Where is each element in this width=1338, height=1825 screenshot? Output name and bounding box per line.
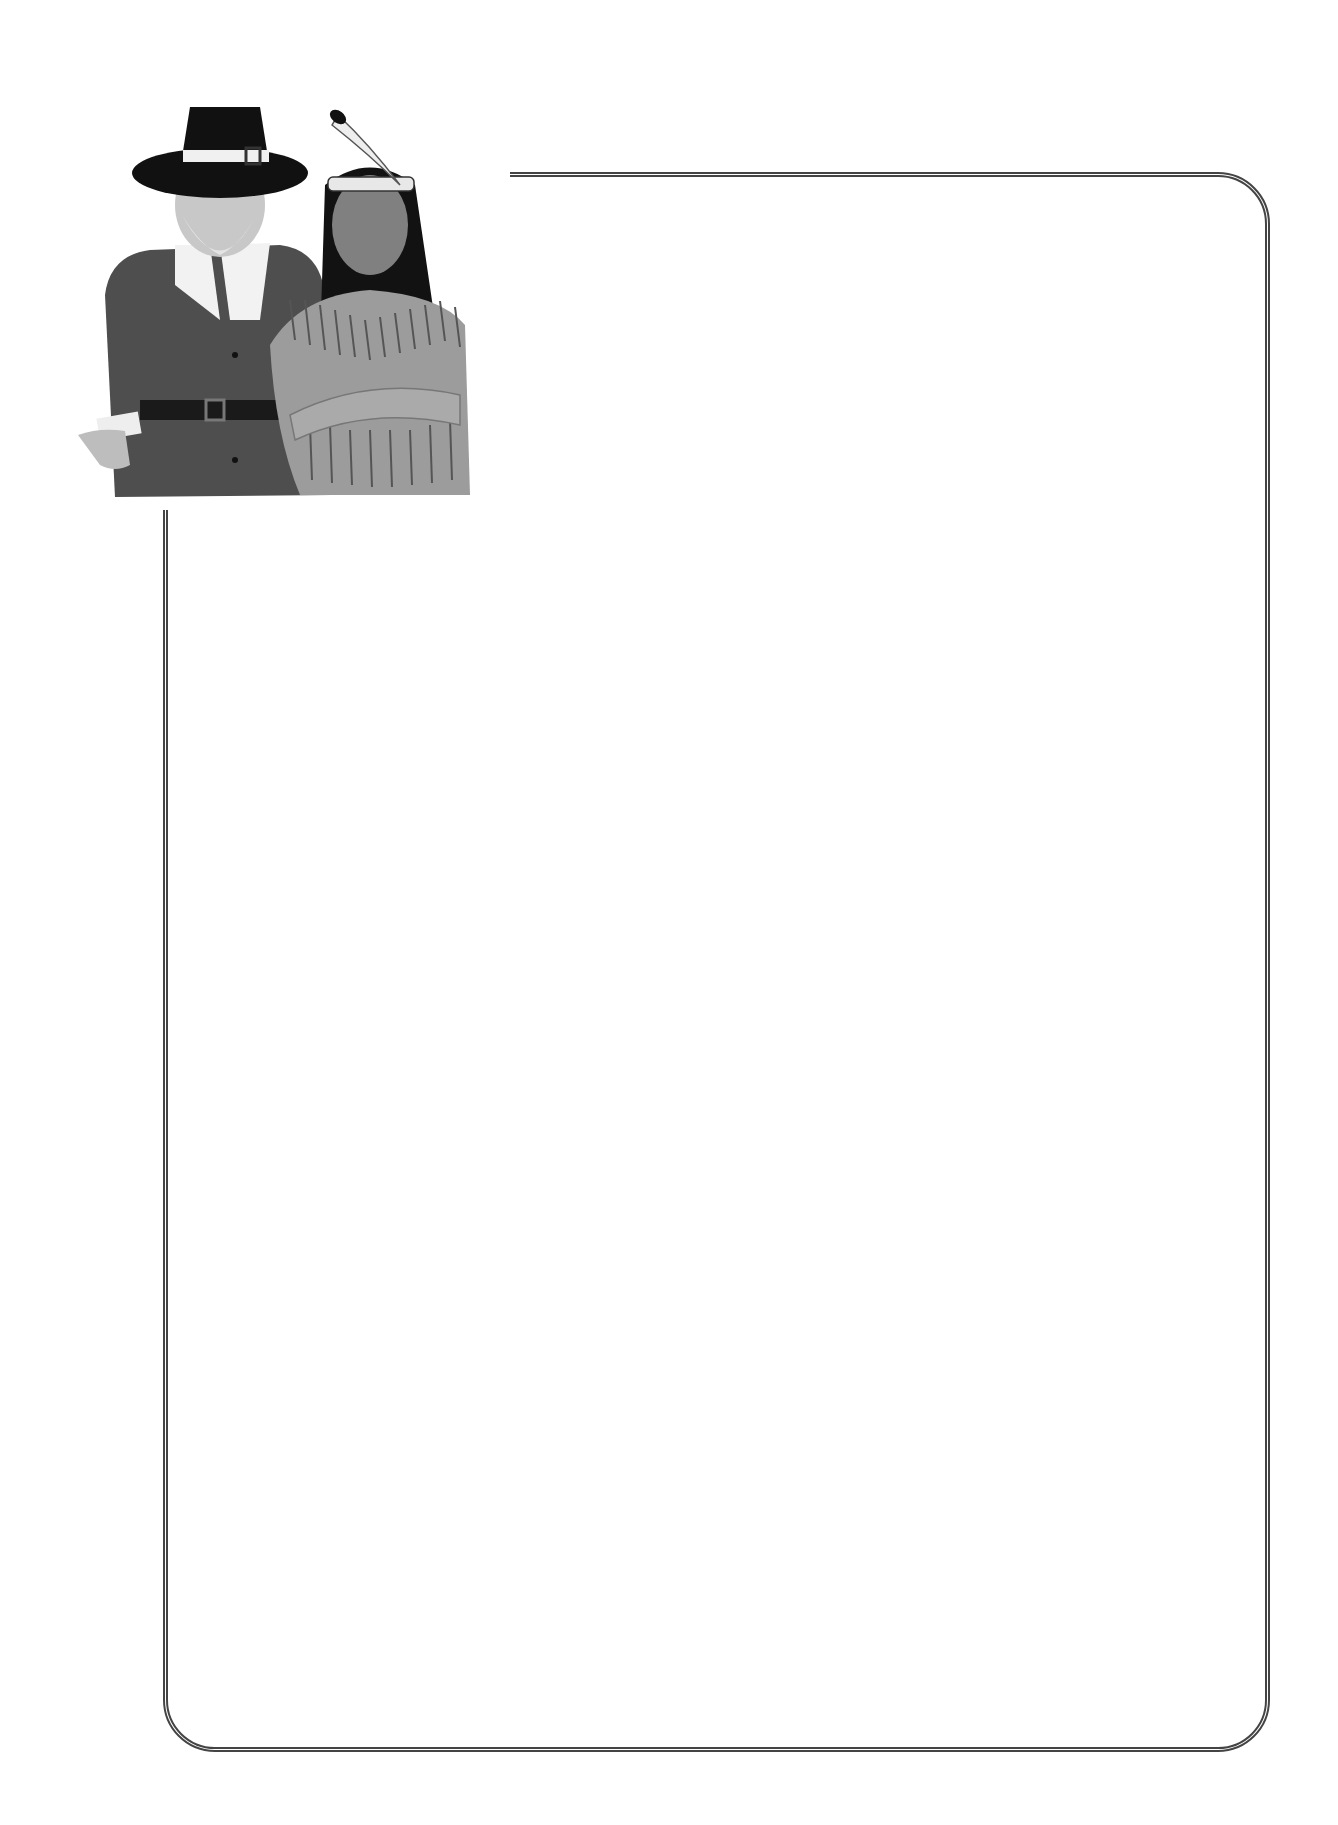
thanksgiving-clipart bbox=[70, 95, 510, 510]
